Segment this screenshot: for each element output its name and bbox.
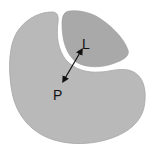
protein-label: P bbox=[53, 87, 62, 103]
ligand-shape bbox=[62, 11, 128, 67]
protein-ligand-diagram: L P bbox=[0, 0, 153, 155]
ligand-label: L bbox=[82, 36, 90, 52]
